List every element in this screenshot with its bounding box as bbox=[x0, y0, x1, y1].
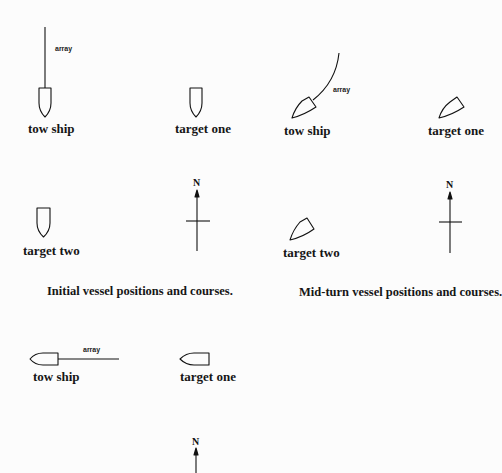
north-label-turn: N bbox=[446, 180, 453, 190]
compass-rose-3 bbox=[194, 448, 198, 473]
compass-rose-1 bbox=[186, 190, 210, 251]
target-one-hull-turn bbox=[439, 97, 464, 118]
target-two-hull-turn bbox=[290, 218, 314, 240]
tow-ship-hull bbox=[39, 88, 51, 117]
tow-ship-hull-final bbox=[30, 353, 58, 365]
target-two-hull bbox=[37, 208, 50, 237]
target-one-label: target one bbox=[175, 122, 231, 135]
target-one-label-final: target one bbox=[180, 370, 236, 383]
target-two-label: target two bbox=[23, 244, 80, 257]
array-label-turn: array bbox=[333, 86, 350, 93]
caption-initial: Initial vessel positions and courses. bbox=[47, 285, 233, 298]
north-label-final: N bbox=[192, 437, 199, 447]
north-label: N bbox=[193, 178, 200, 188]
array-label-final: array bbox=[83, 346, 100, 353]
tow-ship-hull-turn bbox=[292, 97, 316, 118]
tow-ship-label-final: tow ship bbox=[33, 370, 80, 383]
compass-rose-2 bbox=[439, 192, 462, 253]
target-one-hull-final bbox=[180, 353, 209, 365]
caption-mid-turn: Mid-turn vessel positions and courses. bbox=[299, 286, 502, 299]
diagram-canvas bbox=[0, 0, 502, 473]
array-label: array bbox=[55, 45, 72, 52]
target-one-hull bbox=[190, 88, 202, 117]
tow-ship-label-turn: tow ship bbox=[284, 124, 331, 137]
tow-ship-label: tow ship bbox=[28, 122, 75, 135]
target-two-label-turn: target two bbox=[283, 246, 340, 259]
target-one-label-turn: target one bbox=[428, 124, 484, 137]
